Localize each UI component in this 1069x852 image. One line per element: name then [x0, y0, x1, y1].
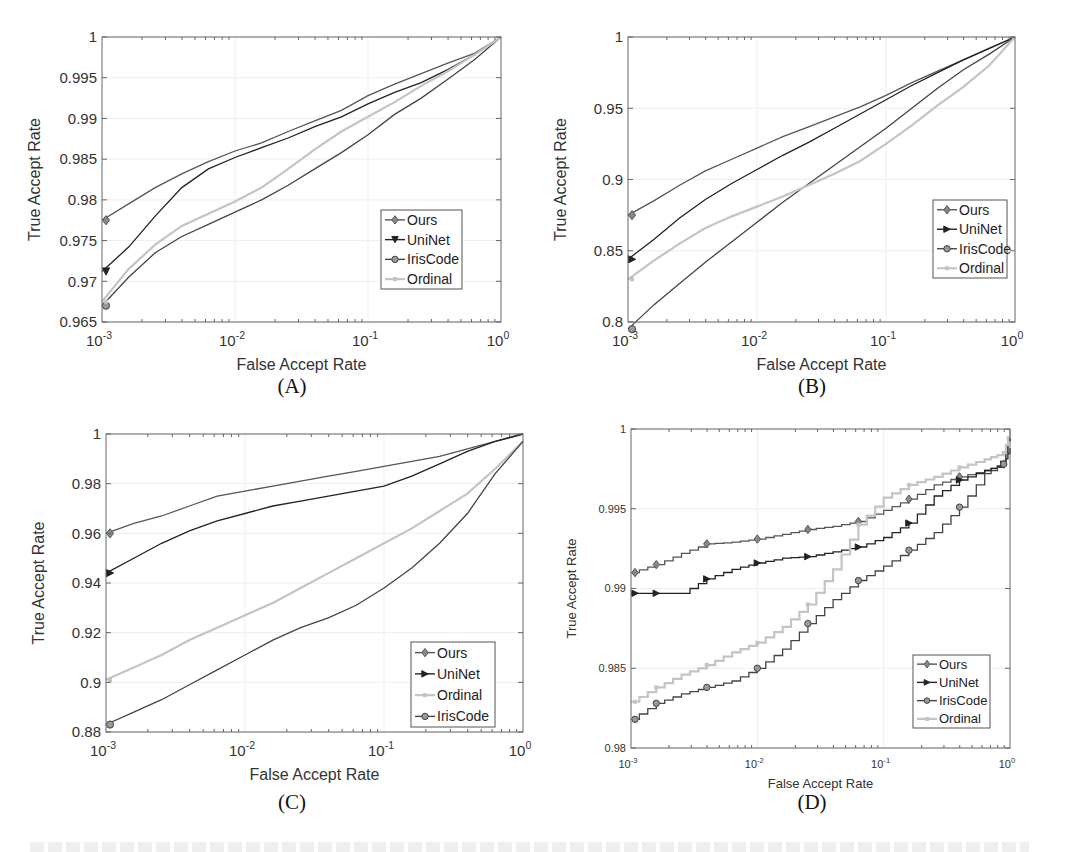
square-marker-icon [856, 523, 860, 527]
square-marker-icon [705, 663, 709, 667]
circle-marker-icon [754, 665, 760, 671]
circle-marker-icon [805, 620, 811, 626]
y-tick-label: 0.98 [605, 742, 626, 754]
square-marker-icon [654, 685, 658, 689]
circle-marker-icon [704, 684, 710, 690]
square-marker-icon [907, 483, 911, 487]
circle-marker-icon [1000, 461, 1006, 467]
figure-panel-d: 0.980.9850.990.995110-310-210-1100False … [0, 0, 1069, 852]
y-tick-label: 0.985 [598, 662, 626, 674]
triangle-right-marker-icon [855, 544, 861, 550]
square-marker-icon [806, 602, 810, 606]
square-marker-icon [755, 641, 759, 645]
circle-marker-icon [653, 700, 659, 706]
triangle-right-marker-icon [632, 590, 638, 596]
circle-marker-icon [906, 547, 912, 553]
chart-d: 0.980.9850.990.995110-310-210-1100False … [0, 0, 1069, 852]
y-axis-label: True Accept Rate [564, 539, 579, 639]
x-tick-label: 10-2 [745, 756, 764, 770]
square-marker-icon [633, 700, 637, 704]
circle-marker-icon [956, 504, 962, 510]
truncated-caption-text [30, 842, 1029, 852]
x-tick-label: 10-3 [618, 756, 637, 770]
legend-entry-ours: Ours [939, 657, 968, 672]
y-tick-label: 1 [620, 423, 626, 435]
square-marker-icon [957, 465, 961, 469]
square-marker-icon [925, 717, 929, 721]
triangle-right-marker-icon [653, 590, 659, 596]
x-axis-label: False Accept Rate [768, 776, 874, 791]
circle-marker-icon [632, 716, 638, 722]
panel-label-d: (D) [782, 790, 842, 815]
triangle-right-marker-icon [805, 553, 811, 559]
legend-entry-iriscode: IrisCode [939, 693, 987, 708]
legend-entry-ordinal: Ordinal [939, 711, 981, 726]
diamond-marker-icon [754, 535, 760, 543]
x-tick-label: 100 [999, 756, 1016, 770]
square-marker-icon [1002, 451, 1006, 455]
diamond-marker-icon [805, 525, 811, 533]
circle-marker-icon [924, 698, 930, 704]
legend: OursUniNetIrisCodeOrdinal [913, 655, 990, 728]
y-tick-label: 0.995 [598, 503, 626, 515]
diamond-marker-icon [632, 568, 638, 576]
y-tick-label: 0.99 [605, 582, 626, 594]
x-tick-label: 10-1 [871, 756, 890, 770]
circle-marker-icon [855, 577, 861, 583]
legend-entry-uninet: UniNet [939, 675, 979, 690]
diamond-marker-icon [906, 495, 912, 503]
